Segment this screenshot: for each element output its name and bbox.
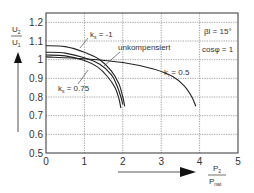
x-tick-label: 0	[43, 156, 49, 167]
x-tick-label: 1	[82, 156, 88, 167]
y-tick-label: 0.6	[29, 129, 43, 140]
y-tick-label: 1.1	[29, 36, 43, 47]
label-ks-minus1: ks = -1	[90, 30, 113, 40]
y-axis-label: U2 U1	[11, 25, 22, 48]
y-tick-label: 0.7	[29, 110, 43, 121]
y-tick-label: 1.2	[29, 17, 43, 28]
x-tick-label: 2	[120, 156, 126, 167]
leader-unkompensiert	[104, 52, 120, 66]
cosphi-annotation: cosφ = 1	[202, 45, 234, 54]
y-tick-label: 0.5	[29, 148, 43, 159]
svg-text:U1: U1	[12, 38, 21, 48]
svg-text:P2: P2	[213, 164, 221, 174]
y-tick-label: 0.9	[29, 73, 43, 84]
x-axis-arrow-icon	[118, 167, 196, 177]
label-ki-05: ki = 0.5	[164, 68, 190, 78]
line-chart: 0.50.60.70.80.911.11.2 012345 U2 U1 P2 P…	[0, 0, 254, 193]
y-axis-arrow-icon	[14, 52, 22, 132]
svg-text:Pnat: Pnat	[209, 177, 222, 187]
beta-annotation: βl = 15°	[204, 27, 232, 36]
curve-2	[46, 55, 121, 108]
x-tick-label: 3	[158, 156, 164, 167]
x-axis-label: P2 Pnat	[208, 164, 226, 187]
label-unkompensiert: unkompensiert	[118, 43, 171, 52]
y-tick-label: 1	[37, 54, 43, 65]
x-axis-ticks: 012345	[43, 156, 241, 167]
y-tick-label: 0.8	[29, 92, 43, 103]
leader-ks-075	[78, 70, 88, 84]
label-ks-075: ks = 0.75	[58, 84, 90, 94]
y-axis-ticks: 0.50.60.70.80.911.11.2	[29, 17, 43, 159]
x-tick-label: 5	[235, 156, 241, 167]
leader-ks-minus1	[80, 38, 88, 48]
x-tick-label: 4	[197, 156, 203, 167]
svg-text:U2: U2	[12, 25, 21, 35]
